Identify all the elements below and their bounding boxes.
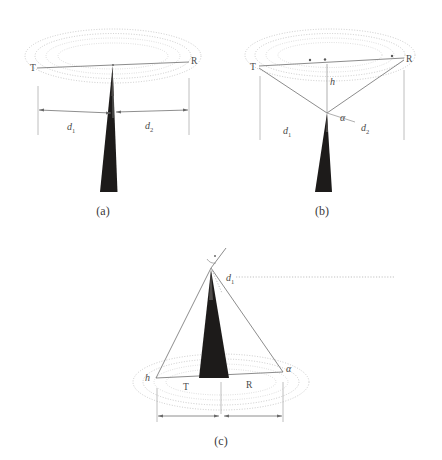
panel-a-label-d1: d 1 xyxy=(67,121,75,134)
figure-container: T R d 1 d 2 (a) xyxy=(0,0,442,460)
panel-c-label-receiver: R xyxy=(246,380,253,390)
panel-c-wedge xyxy=(199,270,229,378)
panel-a-label-receiver: R xyxy=(191,56,198,66)
panel-b-label-transmitter: T xyxy=(250,62,256,72)
panel-c-dim-left xyxy=(158,414,219,417)
panel-a-label-transmitter: T xyxy=(30,63,36,73)
panel-c-label-angle: α xyxy=(286,363,292,374)
panel-b-label-height: h xyxy=(330,76,335,87)
panel-c-label-height: h xyxy=(145,372,150,383)
panel-b-label-angle: α xyxy=(340,112,346,123)
panel-b-d1-subscript: 1 xyxy=(288,131,291,138)
panel-a-caption: (a) xyxy=(96,204,109,218)
panel-a-dim-d2 xyxy=(116,108,188,113)
panel-b-ray-from-r xyxy=(327,60,404,113)
panel-c-label-transmitter: T xyxy=(183,382,189,392)
panel-c: h α T R d 1 (c) xyxy=(133,248,395,448)
panel-b-label-d2: d 2 xyxy=(361,122,369,135)
panel-b-d2-subscript: 2 xyxy=(366,128,369,135)
panel-b-wedge xyxy=(315,113,332,192)
panel-b-ellipses xyxy=(245,29,415,81)
panel-c-d1-subscript: 1 xyxy=(231,278,234,285)
panel-b-ray-from-t xyxy=(259,68,327,113)
panel-b-caption: (b) xyxy=(315,204,329,218)
panel-c-label-d1: d 1 xyxy=(226,272,234,285)
panel-a-d2-subscript: 2 xyxy=(150,126,153,133)
panel-a-label-d2: d 2 xyxy=(145,120,153,133)
panel-c-apex-overshoot xyxy=(211,248,226,268)
panel-c-caption: (c) xyxy=(214,434,227,448)
panel-a-ellipses xyxy=(25,29,201,83)
panel-a: T R d 1 d 2 (a) xyxy=(25,29,201,218)
panel-a-dim-d1 xyxy=(39,108,111,114)
panel-b: T R h α d 1 d 2 (b) xyxy=(245,29,415,218)
panel-b-label-d1: d 1 xyxy=(283,125,291,138)
panel-a-d1-subscript: 1 xyxy=(72,127,75,134)
figure-svg: T R d 1 d 2 (a) xyxy=(0,0,442,460)
panel-b-label-receiver: R xyxy=(406,54,413,64)
panel-c-dim-right xyxy=(224,414,282,417)
panel-a-wedge xyxy=(100,66,118,192)
